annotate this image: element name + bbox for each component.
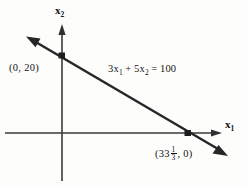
equation-rhs: 100 [160,63,176,74]
x-axis-label: x1 [225,119,234,133]
y-axis-label-subscript: 2 [61,10,65,19]
equation-operator: + [123,63,134,74]
y-intercept-label: (0, 20) [9,63,39,74]
equation-label: 3x1+5x2=100 [108,64,176,77]
x-intercept-fraction: 13 [171,146,177,163]
fraction-denominator: 3 [171,153,177,162]
graph-canvas [0,0,248,188]
y-axis-arrowhead [58,24,65,35]
y-intercept-marker [59,53,66,59]
equation-equals-sign: = [149,63,160,74]
figure-container: x2 x1 (0, 20) 3x1+5x2=100 (3313, 0) [0,0,248,188]
y-axis-label: x2 [55,5,64,19]
x-intercept-prefix: (33 [155,149,170,160]
x-axis-arrowhead [211,129,222,136]
constraint-line-group [26,37,228,157]
constraint-line-arrowhead-left [26,37,41,48]
x-axis-label-subscript: 1 [231,124,235,133]
fraction-numerator: 1 [171,146,177,154]
x-intercept-label: (3313, 0) [155,146,192,163]
x-intercept-marker [185,130,192,136]
x-intercept-suffix: , 0) [178,149,193,160]
y-axis-group [58,24,65,181]
